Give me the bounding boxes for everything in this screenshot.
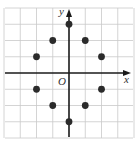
coordinate-plane: x y O — [0, 0, 136, 142]
x-axis-label: x — [123, 73, 129, 85]
origin-label: O — [58, 75, 66, 87]
data-point — [33, 53, 40, 60]
data-point — [49, 102, 56, 109]
data-point — [33, 86, 40, 93]
data-point — [82, 37, 89, 44]
y-axis-label: y — [58, 5, 64, 17]
axes — [5, 9, 131, 137]
data-point — [98, 53, 105, 60]
data-point — [98, 86, 105, 93]
data-point — [49, 37, 56, 44]
data-point — [66, 21, 73, 28]
data-point — [66, 118, 73, 125]
y-axis-arrow-icon — [66, 9, 72, 17]
data-point — [82, 102, 89, 109]
